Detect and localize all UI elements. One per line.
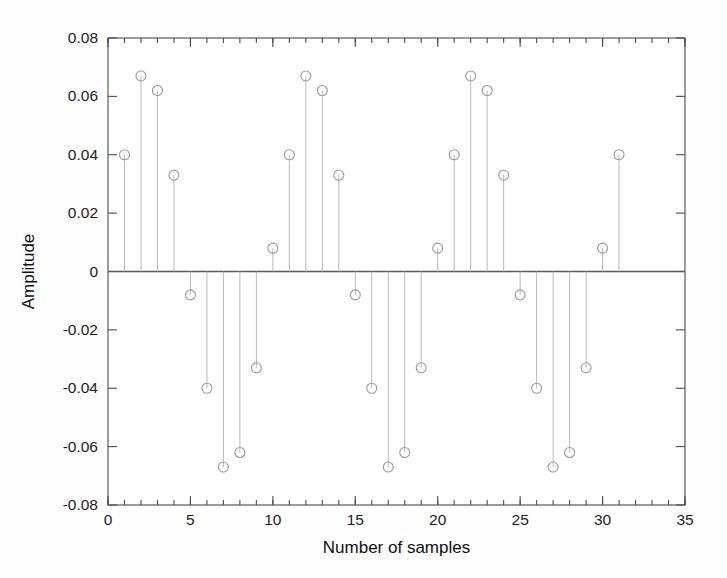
y-tick-label: -0.04 — [63, 379, 99, 396]
y-tick-label: 0.08 — [68, 29, 98, 46]
y-tick-label: 0 — [89, 263, 98, 280]
x-tick-label: 30 — [594, 511, 612, 528]
x-tick-label: 15 — [347, 511, 364, 528]
x-axis-title: Number of samples — [323, 538, 470, 557]
x-tick-label: 20 — [429, 511, 447, 528]
y-tick-label: -0.08 — [63, 496, 98, 513]
x-tick-label: 5 — [186, 511, 195, 528]
y-tick-label: 0.04 — [68, 146, 99, 163]
y-tick-label: 0.06 — [68, 87, 98, 104]
stem-plot-figure: 05101520253035-0.08-0.06-0.04-0.0200.020… — [0, 0, 727, 578]
x-tick-label: 0 — [104, 511, 113, 528]
stem-plot-canvas: 05101520253035-0.08-0.06-0.04-0.0200.020… — [0, 0, 727, 578]
y-tick-label: 0.02 — [68, 204, 98, 221]
y-tick-label: -0.02 — [63, 321, 98, 338]
y-tick-label: -0.06 — [63, 438, 98, 455]
x-tick-label: 25 — [512, 511, 529, 528]
x-tick-label: 35 — [676, 511, 693, 528]
x-tick-label: 10 — [264, 511, 282, 528]
y-axis-title: Amplitude — [19, 234, 38, 310]
